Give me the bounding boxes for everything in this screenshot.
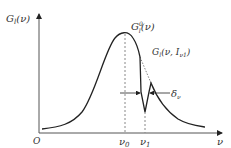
hole-gain-label: Gl(ν, Iν1) — [152, 47, 191, 58]
hole-width-label: δν — [171, 88, 181, 100]
x-axis-label: ν — [217, 136, 223, 147]
nu0-label: ν0 — [119, 136, 130, 148]
nu1-label: ν1 — [140, 136, 151, 148]
y-axis-label: Gl(ν) — [6, 13, 30, 26]
origin-label: O — [33, 136, 41, 146]
unperturbed-dashed-curve — [140, 57, 151, 83]
gain-curve — [42, 33, 205, 129]
gain-curve-diagram: Gl(ν) O ν ν0 ν1 G0l(ν) Gl(ν, Iν1) δν — [0, 0, 231, 148]
peak-gain-label: G0l(ν) — [131, 20, 155, 34]
